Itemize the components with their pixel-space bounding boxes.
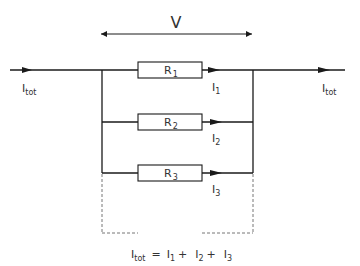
input-wire (10, 67, 138, 73)
branch-2-current-arrow-icon (210, 119, 222, 125)
output-current-arrow-icon (318, 67, 330, 73)
branch-3-current-arrow-icon (210, 170, 222, 176)
output-wire (202, 67, 345, 73)
current-i2-label: I2 (212, 132, 220, 147)
circuit-diagram: V Itot Itot R1 I1 R2 I2 R3 I3 (0, 0, 360, 266)
current-i1-label: I1 (212, 81, 220, 96)
input-current-label: Itot (22, 82, 36, 97)
current-i3-label: I3 (212, 183, 220, 198)
output-current-label: Itot (322, 82, 336, 97)
additional-branches-dashed (102, 174, 253, 233)
input-current-arrow-icon (22, 67, 32, 73)
branch-1-current-arrow-icon (208, 67, 220, 73)
current-sum-equation: Itot=I1+I2+I3 (131, 248, 232, 263)
voltage-label: V (171, 13, 182, 32)
